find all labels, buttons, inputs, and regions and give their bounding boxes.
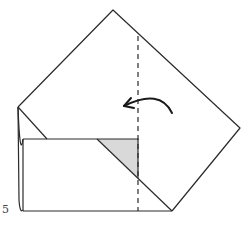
- fold-arrow-icon: [124, 98, 172, 113]
- origami-diagram: [0, 0, 248, 225]
- folded-rectangle: [23, 139, 172, 211]
- paper-outline: [18, 10, 240, 211]
- step-number: 5: [2, 203, 9, 216]
